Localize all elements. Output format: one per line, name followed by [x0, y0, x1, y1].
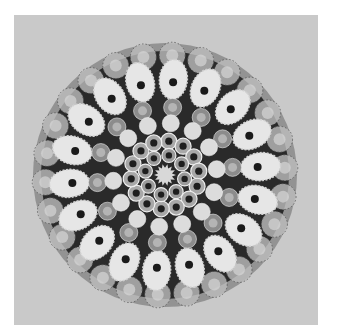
outer-cane-core: [123, 284, 135, 296]
hollow-outer-cane-core: [173, 203, 180, 210]
gray-ringed-cane-core: [96, 148, 105, 157]
outer-cane-core: [97, 272, 109, 284]
light-round-cane: [107, 149, 124, 166]
gray-ringed-cane-core: [93, 178, 102, 187]
light-round-cane: [206, 184, 223, 201]
gray-ringed-cane-core: [112, 122, 121, 131]
outer-cane-core: [50, 120, 62, 132]
light-round-cane: [162, 115, 179, 132]
hollow-inner-cane-core: [145, 183, 151, 189]
hollow-inner-cane-core: [158, 191, 164, 197]
outer-cane-core: [268, 218, 280, 230]
flower-cane-center: [169, 78, 177, 86]
outer-cane-core: [262, 107, 274, 119]
hollow-outer-cane-core: [150, 139, 157, 146]
hollow-inner-cane-core: [178, 161, 184, 167]
flower-cane-center: [227, 105, 235, 113]
flower-cane-center: [153, 264, 161, 272]
outer-cane-core: [44, 205, 56, 217]
hollow-outer-cane-core: [133, 189, 140, 196]
flower-cane-center: [108, 95, 116, 103]
outer-cane-core: [41, 147, 53, 159]
gray-ringed-cane-core: [168, 103, 177, 112]
flower-cane-center: [85, 118, 93, 126]
gray-ringed-cane-core: [103, 207, 112, 216]
hollow-outer-cane-core: [128, 175, 135, 182]
light-round-cane: [208, 161, 225, 178]
hollow-inner-cane-core: [151, 155, 157, 161]
outer-cane-core: [277, 191, 289, 203]
flower-cane-center: [71, 147, 79, 155]
flower-cane-center: [68, 179, 76, 187]
outer-cane-core: [274, 133, 286, 145]
light-round-cane: [112, 194, 129, 211]
light-round-cane: [174, 216, 191, 233]
hollow-outer-cane-core: [129, 160, 136, 167]
gray-ringed-cane-core: [183, 235, 192, 244]
hollow-outer-cane-core: [158, 205, 165, 212]
flower-cane-center: [185, 261, 193, 269]
light-round-cane: [120, 130, 137, 147]
gray-ringed-cane-core: [153, 238, 162, 247]
flower-cane-center: [77, 210, 85, 218]
light-round-cane: [151, 218, 168, 235]
millefiori-paperweight: [32, 42, 298, 308]
hollow-inner-cane-core: [142, 168, 148, 174]
flower-cane-center: [95, 237, 103, 245]
flower-cane-center: [200, 87, 208, 95]
flower-cane-center: [137, 81, 145, 89]
light-round-cane: [129, 211, 146, 228]
light-round-cane: [193, 203, 210, 220]
outer-cane-core: [137, 51, 149, 63]
light-round-cane: [139, 117, 156, 134]
outer-cane-core: [56, 231, 68, 243]
hollow-outer-cane-core: [137, 147, 144, 154]
outer-cane-core: [195, 54, 207, 66]
flower-cane-center: [245, 132, 253, 140]
outer-cane-core: [181, 287, 193, 299]
hollow-outer-cane-core: [193, 183, 200, 190]
light-round-cane: [105, 172, 122, 189]
hollow-outer-cane-core: [143, 200, 150, 207]
flower-cane-center: [122, 255, 130, 263]
light-round-cane: [201, 139, 218, 156]
outer-cane-core: [208, 278, 220, 290]
flower-cane-center: [214, 247, 222, 255]
hollow-outer-cane-core: [165, 138, 172, 145]
hollow-inner-cane-core: [181, 176, 187, 182]
flower-cane-center: [254, 163, 262, 171]
gray-ringed-cane-core: [228, 163, 237, 172]
gray-ringed-cane-core: [209, 219, 218, 228]
outer-cane-core: [110, 60, 122, 72]
gray-ringed-cane-core: [197, 113, 206, 122]
hollow-outer-cane-core: [190, 153, 197, 160]
hollow-inner-cane-core: [173, 188, 179, 194]
gray-ringed-cane-core: [124, 228, 133, 237]
light-round-cane: [184, 122, 201, 139]
hollow-outer-cane-core: [185, 195, 192, 202]
gray-ringed-cane-core: [225, 193, 234, 202]
hollow-outer-cane-core: [179, 143, 186, 150]
flower-cane-center: [251, 195, 259, 203]
hollow-outer-cane-core: [195, 168, 202, 175]
gray-ringed-cane-core: [138, 106, 147, 115]
paperweight-image: [0, 0, 339, 330]
outer-cane-core: [221, 66, 233, 78]
hollow-inner-cane-core: [166, 152, 172, 158]
flower-cane-center: [237, 224, 245, 232]
gray-ringed-cane-core: [218, 134, 227, 143]
